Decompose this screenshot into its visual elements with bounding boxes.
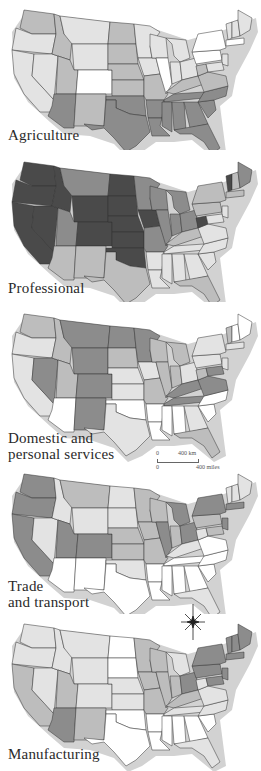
state-wy [72, 196, 108, 222]
state-nd [108, 326, 136, 348]
state-md [206, 526, 224, 536]
state-ks [112, 232, 144, 248]
state-sd [108, 348, 138, 368]
state-nd [108, 22, 136, 44]
state-wa [20, 624, 56, 648]
state-wi [150, 338, 168, 362]
state-ar [146, 100, 164, 118]
compass-rose-icon [178, 602, 208, 642]
state-al [172, 102, 186, 130]
map-agriculture: Agriculture [0, 0, 261, 150]
state-wi [150, 498, 168, 522]
map-domestic-services: Domestic and personal services 0 400 km … [0, 304, 261, 464]
state-ne [108, 216, 144, 232]
state-ks [112, 694, 144, 710]
map-trade-transport: Trade and transport [0, 464, 261, 614]
state-md [206, 676, 224, 686]
state-wa [20, 314, 56, 338]
scale-km-zero: 0 [156, 450, 159, 456]
state-ar [146, 564, 164, 582]
state-ar [146, 404, 164, 422]
state-ny [192, 644, 226, 666]
state-al [172, 254, 186, 282]
state-ne [108, 678, 144, 694]
state-nm [74, 398, 106, 430]
state-al [172, 716, 186, 744]
state-nm [74, 94, 106, 126]
state-ne [108, 528, 144, 544]
state-nd [108, 486, 136, 508]
state-al [172, 406, 186, 434]
map-label-trade-line2: and transport [8, 594, 89, 610]
map-professional: Professional [0, 152, 261, 302]
state-co [76, 684, 112, 708]
state-wa [20, 474, 56, 498]
map-label-agriculture: Agriculture [8, 127, 79, 143]
state-co [76, 222, 112, 246]
state-ar [146, 252, 164, 270]
state-wy [72, 44, 108, 70]
scale-line [157, 459, 199, 463]
map-label-manufacturing: Manufacturing [8, 746, 100, 762]
state-ks [112, 544, 144, 560]
map-label-domestic-line1: Domestic and [8, 430, 93, 446]
state-nm [74, 246, 106, 278]
state-nj [222, 358, 228, 370]
map-manufacturing: Manufacturing [0, 614, 261, 771]
state-sd [108, 44, 138, 64]
map-label-domestic-line2: personal services [8, 446, 114, 462]
state-ar [146, 714, 164, 732]
state-wi [150, 186, 168, 210]
state-co [76, 534, 112, 558]
state-co [76, 374, 112, 398]
state-ny [192, 182, 226, 204]
state-wa [20, 162, 56, 186]
state-nj [222, 54, 228, 66]
state-wi [150, 648, 168, 672]
state-nj [222, 518, 228, 530]
state-nd [108, 636, 136, 658]
state-sd [108, 658, 138, 678]
state-md [206, 366, 224, 376]
state-ks [112, 384, 144, 400]
state-al [172, 566, 186, 594]
state-wy [72, 658, 108, 684]
state-wy [72, 508, 108, 534]
state-nj [222, 668, 228, 680]
state-nd [108, 174, 136, 196]
state-nm [74, 558, 106, 590]
state-md [206, 62, 224, 72]
scale-km-label: 400 km [178, 450, 196, 456]
map-label-professional: Professional [8, 280, 85, 296]
state-sd [108, 196, 138, 216]
state-ny [192, 494, 226, 516]
state-wy [72, 348, 108, 374]
state-sd [108, 508, 138, 528]
state-nj [222, 206, 228, 218]
state-wa [20, 10, 56, 34]
state-ne [108, 64, 144, 80]
state-ny [192, 334, 226, 356]
state-wi [150, 34, 168, 58]
state-ne [108, 368, 144, 384]
state-ny [192, 30, 226, 52]
map-label-trade-line1: Trade [8, 578, 43, 594]
state-co [76, 70, 112, 94]
state-nm [74, 708, 106, 740]
state-ks [112, 80, 144, 96]
state-md [206, 214, 224, 224]
